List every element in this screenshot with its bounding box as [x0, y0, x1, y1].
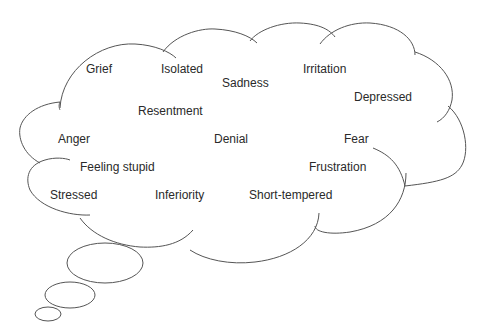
emotion-label-sadness: Sadness — [222, 76, 269, 90]
emotion-label-fear: Fear — [344, 132, 369, 146]
emotion-label-short-tempered: Short-tempered — [249, 188, 332, 202]
bubble-small — [35, 307, 61, 321]
emotion-label-frustration: Frustration — [309, 160, 366, 174]
thought-cloud — [0, 0, 481, 334]
emotion-label-stressed: Stressed — [50, 188, 97, 202]
emotion-label-inferiority: Inferiority — [155, 188, 204, 202]
emotion-label-denial: Denial — [214, 132, 248, 146]
emotion-label-isolated: Isolated — [161, 62, 203, 76]
emotion-label-feeling-stupid: Feeling stupid — [80, 160, 155, 174]
emotion-label-grief: Grief — [86, 62, 112, 76]
emotion-label-depressed: Depressed — [354, 90, 412, 104]
bubble-medium — [45, 282, 95, 308]
emotion-label-irritation: Irritation — [303, 62, 346, 76]
bubble-large — [67, 243, 143, 283]
emotion-label-resentment: Resentment — [138, 104, 203, 118]
trailing-bubbles — [35, 243, 143, 321]
emotion-label-anger: Anger — [58, 132, 90, 146]
